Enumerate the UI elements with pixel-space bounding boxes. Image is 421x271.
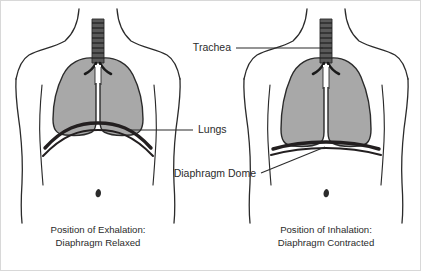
label-trachea: Trachea xyxy=(193,41,231,53)
diagram-page: Position of Exhalation: Diaphragm Relaxe… xyxy=(0,0,421,271)
callout-trachea: Trachea xyxy=(193,41,323,53)
panel-exhalation: Position of Exhalation: Diaphragm Relaxe… xyxy=(16,9,180,248)
breathing-diagram: Position of Exhalation: Diaphragm Relaxe… xyxy=(1,1,421,271)
caption-exhalation-line1: Position of Exhalation: xyxy=(51,224,146,235)
caption-inhalation-line2: Diaphragm Contracted xyxy=(278,237,375,248)
panel-inhalation: Position of Inhalation: Diaphragm Contra… xyxy=(244,9,408,248)
callout-lungs: Lungs xyxy=(129,123,227,135)
caption-inhalation-line1: Position of Inhalation: xyxy=(280,224,372,235)
label-lungs: Lungs xyxy=(198,123,227,135)
caption-exhalation-line2: Diaphragm Relaxed xyxy=(56,237,141,248)
navel-exhalation xyxy=(96,189,102,197)
diaphragm-inhalation xyxy=(271,142,381,155)
navel-inhalation xyxy=(324,189,330,197)
label-diaphragm-dome: Diaphragm Dome xyxy=(174,167,256,179)
